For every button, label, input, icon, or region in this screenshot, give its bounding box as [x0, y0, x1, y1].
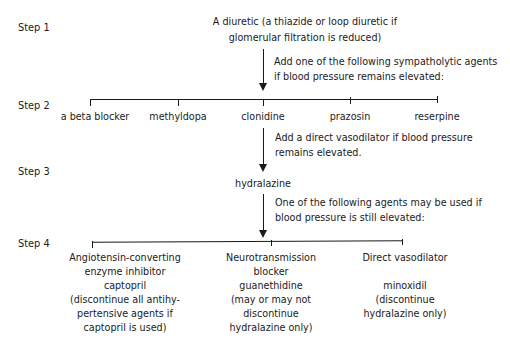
step-2-bracket	[90, 99, 438, 100]
step-3-drug: hydralazine	[223, 177, 303, 191]
option-line: captopril is used)	[60, 321, 190, 335]
arrow-2-shaft	[263, 128, 264, 164]
step-2-option-clonidine: clonidine	[223, 110, 303, 124]
option-line: Angiotensin-converting	[60, 251, 190, 265]
option-line: (discontinue all antihy-	[60, 293, 190, 307]
step-2-option-reserpine: reserpine	[397, 110, 477, 124]
transition-1-line-1: Add one of the following sympatholytic a…	[274, 55, 497, 69]
step-1-line-2: glomerular filtration is reduced)	[155, 31, 455, 45]
step-4-bracket	[92, 240, 403, 243]
step-4-tick-3	[402, 239, 403, 245]
step-4-option-neurotransmission-blocker: Neurotransmission blocker guanethidine (…	[216, 251, 326, 335]
step-4-label: Step 4	[18, 238, 50, 249]
step-2-option-methyldopa: methyldopa	[138, 110, 218, 124]
step-2-label: Step 2	[18, 100, 50, 111]
option-spacer	[345, 265, 465, 279]
option-line: captopril	[60, 279, 190, 293]
arrow-3-shaft	[263, 194, 264, 230]
step-2-option-beta-blocker: a beta blocker	[50, 110, 140, 124]
arrow-3-head-icon	[259, 230, 267, 238]
transition-2-line-1: Add a direct vasodilator if blood pressu…	[275, 131, 473, 145]
transition-1-text: Add one of the following sympatholytic a…	[274, 55, 497, 84]
option-line: Direct vasodilator	[345, 251, 465, 265]
transition-3-line-2: blood pressure is still elevated:	[275, 211, 482, 225]
option-line: (may or may not	[216, 293, 326, 307]
step-2-tick-4	[350, 97, 351, 104]
step-1-text: A diuretic (a thiazide or loop diuretic …	[155, 15, 455, 45]
option-line: pertensive agents if	[60, 307, 190, 321]
step-1-label: Step 1	[18, 22, 50, 33]
step-2-tick-5	[437, 96, 438, 103]
transition-3-text: One of the following agents may be used …	[275, 196, 482, 225]
option-line: guanethidine	[216, 279, 326, 293]
arrow-1-shaft	[263, 49, 264, 83]
option-line: hydralazine only)	[345, 307, 465, 321]
transition-1-line-2: if blood pressure remains elevated:	[274, 70, 497, 84]
option-line: blocker	[216, 265, 326, 279]
step-2-option-prazosin: prazosin	[310, 110, 390, 124]
arrow-2-head-icon	[259, 164, 267, 172]
option-line: minoxidil	[345, 279, 465, 293]
option-line: discontinue	[216, 307, 326, 321]
step-2-tick-1	[90, 99, 91, 106]
step-4-option-direct-vasodilator: Direct vasodilator minoxidil (discontinu…	[345, 251, 465, 321]
option-line: hydralazine only)	[216, 321, 326, 335]
step-4-tick-2	[271, 240, 272, 246]
option-line: enzyme inhibitor	[60, 265, 190, 279]
transition-2-text: Add a direct vasodilator if blood pressu…	[275, 131, 473, 160]
step-4-option-ace-inhibitor: Angiotensin-converting enzyme inhibitor …	[60, 251, 190, 335]
option-line: (discontinue	[345, 293, 465, 307]
step-2-tick-3	[263, 99, 264, 106]
transition-2-line-2: remains elevated.	[275, 146, 473, 160]
arrow-1-head-icon	[259, 83, 267, 91]
step-1-line-1: A diuretic (a thiazide or loop diuretic …	[155, 15, 455, 29]
step-4-tick-1	[92, 241, 93, 248]
step-2-tick-2	[178, 99, 179, 106]
step-3-label: Step 3	[18, 166, 50, 177]
transition-3-line-1: One of the following agents may be used …	[275, 196, 482, 210]
option-line: Neurotransmission	[216, 251, 326, 265]
